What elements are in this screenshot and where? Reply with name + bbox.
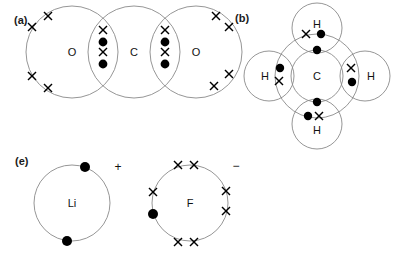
bond-electrons-carbon-hydrogen-bottom xyxy=(304,112,323,120)
dot-mark xyxy=(161,38,170,47)
transferred-electron-fluoride xyxy=(148,209,158,219)
cross-mark xyxy=(174,161,182,169)
dot-mark xyxy=(276,64,284,72)
panel-co2: (a) O C O xyxy=(0,0,232,110)
atom-label-hydrogen-left: H xyxy=(261,70,269,82)
lithium-fluoride-diagram: Li + F − xyxy=(0,150,260,259)
co2-diagram: O C O xyxy=(0,0,232,110)
atom-label-carbon: C xyxy=(130,46,138,58)
cross-mark xyxy=(210,82,218,90)
atom-label-oxygen-right: O xyxy=(192,46,201,58)
cross-mark xyxy=(28,72,36,80)
cross-mark xyxy=(190,238,198,246)
dot-mark xyxy=(313,98,321,106)
bond-electrons-carbon-oxygen-right xyxy=(161,26,170,68)
lone-pair-crosses-oxygen-right xyxy=(210,12,233,90)
cross-mark xyxy=(161,48,169,56)
dot-mark xyxy=(62,236,72,246)
dot-mark xyxy=(161,60,170,69)
dot-mark xyxy=(317,30,325,38)
bond-electrons-carbon-hydrogen-left xyxy=(275,64,284,85)
bond-electrons-oxygen-left-carbon xyxy=(99,26,108,68)
shell-hydrogen-right xyxy=(340,51,390,101)
atom-label-hydrogen-bottom: H xyxy=(313,124,321,136)
charge-label-fluoride: − xyxy=(232,159,239,173)
atom-label-carbon: C xyxy=(313,70,321,82)
lone-pair-crosses-oxygen-left xyxy=(28,12,52,92)
dot-mark xyxy=(99,38,108,47)
cross-mark xyxy=(222,187,230,195)
atom-label-oxygen-left: O xyxy=(68,46,77,58)
cross-mark xyxy=(315,112,323,120)
dot-mark xyxy=(80,162,90,172)
cross-mark xyxy=(161,26,169,34)
cross-mark xyxy=(302,30,310,38)
cross-mark xyxy=(99,48,107,56)
atom-label-hydrogen-top: H xyxy=(313,18,321,30)
bond-electrons-carbon-hydrogen-right xyxy=(347,64,356,86)
dot-mark xyxy=(348,78,356,86)
shell-hydrogen-left xyxy=(244,51,294,101)
atom-label-lithium: Li xyxy=(68,197,77,209)
panel-lithium-fluoride: (e) Li + F − xyxy=(0,150,260,259)
cross-mark xyxy=(212,12,220,20)
cross-mark xyxy=(347,64,355,72)
cross-mark xyxy=(275,77,283,85)
dot-mark xyxy=(148,209,158,219)
dot-mark xyxy=(99,60,108,69)
atom-label-hydrogen-right: H xyxy=(367,70,375,82)
cross-mark xyxy=(99,26,107,34)
dot-mark xyxy=(304,112,312,120)
atom-label-fluorine: F xyxy=(187,197,194,209)
dot-mark xyxy=(313,46,321,54)
panel-methane: (b) C H H H H xyxy=(232,0,397,152)
charge-label-lithium: + xyxy=(114,160,121,174)
methane-diagram: C H H H H xyxy=(232,0,397,152)
